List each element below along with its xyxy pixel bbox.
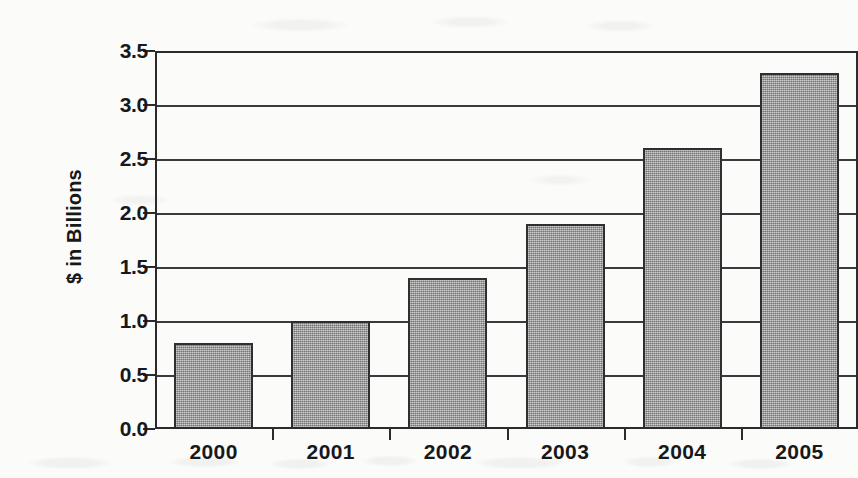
y-axis-tick-label: 1.5 [120, 255, 148, 279]
bar-chart: $ in Billions 0.00.51.01.52.02.53.03.5 2… [40, 16, 805, 462]
x-axis-tick-label: 2001 [307, 440, 355, 464]
y-axis-tick-label: 2.0 [120, 201, 148, 225]
x-axis-tick-label: 2002 [424, 440, 472, 464]
x-axis-tick-label: 2005 [775, 440, 823, 464]
x-axis-tick-label: 2004 [658, 440, 706, 464]
bar [526, 224, 605, 429]
y-axis-title-text: $ in Billions [63, 169, 86, 284]
y-axis-tick-label: 1.0 [120, 309, 148, 333]
x-axis-tick [624, 429, 626, 440]
y-axis-tick-label: 3.5 [120, 39, 148, 63]
y-axis-tick-label: 0.5 [120, 363, 148, 387]
x-axis-tick-label: 2000 [189, 440, 237, 464]
plot-area [155, 51, 858, 429]
bar [174, 343, 253, 429]
x-axis-tick-labels: 200020012002200320042005 [155, 440, 858, 478]
bar [291, 321, 370, 429]
x-axis-tick [741, 429, 743, 440]
x-axis-tick-label: 2003 [541, 440, 589, 464]
x-axis-tick [507, 429, 509, 440]
y-axis-tick-label: 3.0 [120, 93, 148, 117]
x-axis-tick [272, 429, 274, 440]
x-axis-tick [389, 429, 391, 440]
y-axis-tick-labels: 0.00.51.01.52.02.53.03.5 [86, 16, 148, 478]
y-axis-tick-label: 0.0 [120, 417, 148, 441]
bars-group [155, 51, 858, 429]
y-axis-tick-label: 2.5 [120, 147, 148, 171]
bar [760, 73, 839, 429]
bar [643, 148, 722, 429]
bar [408, 278, 487, 429]
